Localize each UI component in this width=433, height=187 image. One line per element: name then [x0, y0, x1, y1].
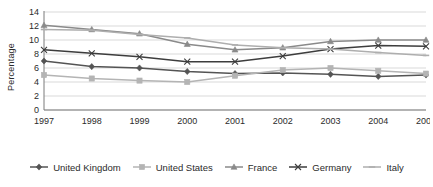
legend-marker-icon — [288, 162, 308, 172]
y-tick-label: 6 — [34, 63, 39, 73]
series-france — [41, 22, 429, 52]
plot-svg: 0246810121419971998199920002001200220032… — [20, 6, 430, 134]
data-point-marker — [41, 72, 46, 77]
legend-item-label: Germany — [312, 162, 351, 173]
legend-item-label: United States — [156, 162, 213, 173]
y-tick-label: 14 — [29, 7, 39, 17]
legend-item-germany[interactable]: Germany — [288, 162, 351, 173]
legend-marker-icon — [224, 162, 244, 172]
data-point-marker — [232, 73, 237, 78]
x-tick-label: 2000 — [177, 116, 197, 126]
legend-item-france[interactable]: France — [224, 162, 278, 173]
legend-item-italy[interactable]: Italy — [362, 162, 403, 173]
data-point-marker — [328, 65, 333, 70]
legend-item-united-states[interactable]: United States — [132, 162, 213, 173]
data-point-marker — [328, 71, 334, 77]
y-tick-label: 12 — [29, 21, 39, 31]
y-axis-title: Percentage — [2, 0, 20, 133]
line-chart: Percentage 02468101214199719981999200020… — [0, 0, 433, 187]
legend-item-label: United Kingdom — [53, 162, 121, 173]
data-point-marker — [185, 79, 190, 84]
legend-marker-icon — [362, 162, 382, 172]
data-point-marker — [376, 68, 381, 73]
x-tick-label: 1997 — [34, 116, 54, 126]
legend-item-united-kingdom[interactable]: United Kingdom — [29, 162, 121, 173]
data-point-marker — [41, 58, 47, 64]
data-point-marker — [139, 164, 144, 169]
y-tick-label: 10 — [29, 35, 39, 45]
legend-marker-icon — [29, 162, 49, 172]
x-tick-label: 2004 — [368, 116, 388, 126]
y-axis-title-text: Percentage — [6, 42, 16, 90]
data-point-marker — [137, 65, 143, 71]
data-point-marker — [137, 78, 142, 83]
data-point-marker — [280, 68, 285, 73]
x-tick-label: 2003 — [320, 116, 340, 126]
x-tick-label: 1998 — [82, 116, 102, 126]
series-germany — [41, 43, 429, 65]
y-tick-label: 0 — [34, 105, 39, 115]
data-point-marker — [36, 164, 42, 170]
x-tick-label: 2002 — [273, 116, 293, 126]
x-tick-label: 2005 — [416, 116, 430, 126]
y-tick-label: 2 — [34, 91, 39, 101]
legend-item-label: Italy — [386, 162, 403, 173]
x-tick-label: 1999 — [129, 116, 149, 126]
data-point-marker — [375, 73, 381, 79]
data-point-marker — [89, 64, 95, 70]
chart-legend: United KingdomUnited StatesFranceGermany… — [0, 155, 433, 179]
data-point-marker — [423, 71, 428, 76]
y-tick-label: 4 — [34, 77, 39, 87]
data-point-marker — [89, 76, 94, 81]
plot-area: 0246810121419971998199920002001200220032… — [20, 6, 430, 134]
legend-item-label: France — [248, 162, 278, 173]
legend-marker-icon — [132, 162, 152, 172]
x-tick-label: 2001 — [225, 116, 245, 126]
y-tick-label: 8 — [34, 49, 39, 59]
data-point-marker — [184, 68, 190, 74]
